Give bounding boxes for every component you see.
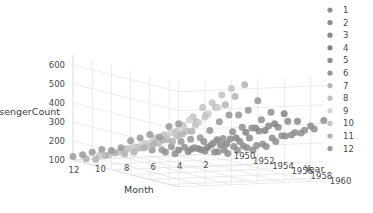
data-point [178,138,185,145]
legend-item[interactable]: 9 [327,106,348,116]
x-tick-label: 8 [124,163,129,173]
data-point [102,152,109,159]
data-point [230,143,237,150]
data-point [79,151,86,158]
legend-label: 11 [343,131,354,141]
data-point [278,132,285,139]
z-tick-label: 100 [49,155,65,165]
legend-swatch-icon [327,7,332,12]
data-point [199,104,206,111]
data-point [229,128,236,135]
legend-item[interactable]: 6 [327,68,348,78]
x-tick-label: 2 [203,160,208,170]
legend-item[interactable]: 10 [327,118,353,128]
data-point [202,114,209,121]
y-axis-title: Year [303,163,324,174]
data-point [92,156,99,163]
legend-swatch-icon [327,83,332,88]
legend-swatch-icon [327,96,332,101]
legend-swatch-icon [327,133,332,138]
legend-swatch-icon [327,45,332,50]
z-tick-label: 500 [49,79,65,89]
data-point [146,131,153,138]
data-point [187,136,194,143]
data-point [307,123,314,130]
legend-item[interactable]: 12 [327,144,353,154]
x-axis-title: Month [124,184,154,195]
data-point [241,81,248,88]
data-point [281,110,288,117]
data-point [127,137,134,144]
legend-swatch-icon [327,70,332,75]
data-point [294,118,301,125]
data-point [158,146,165,153]
data-point [226,112,233,119]
data-point [175,120,182,127]
x-tick-label: 4 [177,161,182,171]
data-point [222,101,229,108]
data-point [89,149,96,156]
legend-item[interactable]: 8 [327,93,348,103]
data-point [209,99,216,106]
data-point [232,93,239,100]
data-point [269,134,276,141]
legend-label: 6 [343,68,348,78]
legend-label: 9 [343,106,348,116]
data-point [204,144,211,151]
legend-item[interactable]: 5 [327,55,348,65]
data-point [191,144,198,151]
legend-label: 8 [343,93,348,103]
legend-label: 4 [343,43,348,53]
legend-label: 1 [343,5,348,15]
data-point [215,104,222,111]
legend-swatch-icon [327,121,332,126]
legend-item[interactable]: 7 [327,81,348,91]
data-point [197,134,204,141]
legend-item[interactable]: 2 [327,18,348,28]
legend-swatch-icon [327,33,332,38]
scatter3d-chart: 1002003004005006001210864219501952195419… [0,0,373,213]
y-tick-label: 1960 [330,176,352,186]
data-point [320,117,327,124]
x-tick-label: 10 [95,164,106,174]
z-tick-label: 300 [49,117,65,127]
x-tick-label: 6 [150,162,155,172]
data-point [245,107,252,114]
data-point [239,124,246,131]
data-point [150,141,157,148]
data-point [140,145,147,152]
data-point [166,123,173,130]
legend-label: 7 [343,81,348,91]
z-tick-label: 200 [49,136,65,146]
data-point [172,150,179,157]
z-axis-title: PassengerCount [0,106,60,117]
legend-item[interactable]: 4 [327,43,348,53]
data-point [233,135,240,142]
data-point [118,144,125,151]
data-point [188,128,195,135]
legend-swatch-icon [327,108,332,113]
data-point [235,111,242,118]
data-point [259,140,266,147]
data-point [268,109,275,116]
data-point [228,85,235,92]
data-point [108,147,115,154]
data-point [284,118,291,125]
data-point [121,151,128,158]
data-point [220,135,227,142]
data-point [271,120,278,127]
data-point [179,131,186,138]
data-point [186,117,193,124]
legend-label: 3 [343,30,348,40]
data-point [211,149,218,156]
legend-swatch-icon [327,146,332,151]
legend-item[interactable]: 1 [327,5,348,15]
x-tick-label: 12 [69,165,80,175]
data-point [169,138,176,145]
legend-item[interactable]: 11 [327,131,353,141]
chart-legend[interactable]: 123456789101112 [327,5,353,154]
z-tick-label: 600 [49,60,65,70]
data-point [173,128,180,135]
legend-item[interactable]: 3 [327,30,348,40]
data-point [70,153,77,160]
